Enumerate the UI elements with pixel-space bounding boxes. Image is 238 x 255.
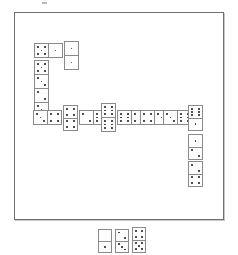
domino-1-2[interactable] [188, 134, 203, 160]
pip-grid [36, 45, 46, 55]
domino-half-a [116, 230, 128, 242]
domino-half-b [189, 148, 202, 160]
pip [143, 113, 145, 115]
pip-grid [190, 107, 200, 116]
pip [127, 113, 129, 115]
image-speck [42, 2, 47, 4]
pip [135, 248, 137, 250]
domino-half-b [99, 242, 111, 253]
pip [198, 111, 200, 113]
domino-6-1[interactable] [188, 105, 203, 131]
pip-grid [103, 119, 113, 129]
pip [104, 110, 106, 112]
pip [73, 114, 75, 116]
pip-grid [65, 107, 75, 116]
pip [141, 230, 143, 232]
pip [124, 249, 126, 251]
pip [180, 120, 182, 122]
domino-5-1[interactable] [34, 43, 63, 58]
pip [104, 113, 106, 115]
pip-grid [117, 243, 126, 251]
pip [195, 140, 197, 142]
pip-grid [35, 112, 45, 122]
pip [191, 149, 193, 151]
domino-6-6[interactable] [101, 103, 116, 132]
pip [37, 63, 39, 65]
pip [71, 48, 73, 50]
domino-half-a [189, 162, 202, 175]
pip [118, 243, 120, 245]
pip [121, 246, 123, 248]
pip [44, 53, 46, 55]
pip-grid [190, 149, 200, 158]
pip [44, 98, 46, 100]
domino-4-5[interactable] [132, 227, 146, 253]
domino-half-a [133, 228, 145, 241]
pip [111, 113, 113, 115]
domino-2-3[interactable] [115, 229, 129, 253]
domino-half-a [189, 106, 202, 119]
pip [141, 248, 143, 250]
pip [135, 242, 137, 244]
pip [166, 113, 168, 115]
domino-half-a [141, 111, 155, 124]
pip [41, 67, 43, 69]
pip [66, 126, 68, 128]
domino-half-a [65, 42, 78, 56]
pip [191, 108, 193, 110]
domino-0-1[interactable] [98, 229, 112, 253]
domino-2-4[interactable] [188, 161, 203, 187]
pip [104, 106, 106, 108]
pip-grid [36, 76, 46, 86]
pip [138, 245, 140, 247]
pip [143, 120, 145, 122]
pip [44, 63, 46, 65]
domino-half-a [35, 89, 48, 103]
pip-grid [65, 120, 75, 129]
pip-grid [134, 242, 143, 251]
pip [104, 124, 106, 126]
pip-grid [134, 229, 143, 238]
domino-1-1[interactable] [64, 41, 79, 70]
pip [66, 120, 68, 122]
pip [73, 120, 75, 122]
domino-4-4[interactable] [63, 105, 78, 131]
domino-3-4[interactable] [33, 110, 62, 125]
pip [44, 46, 46, 48]
pip-grid [36, 62, 46, 72]
pip-grid [81, 112, 91, 122]
domino-half-b [48, 111, 61, 124]
pip [37, 91, 39, 93]
pip [43, 120, 45, 122]
domino-half-a [102, 104, 115, 118]
pip [71, 62, 73, 64]
pip [40, 117, 42, 119]
pip-grid [119, 112, 129, 122]
pip [104, 127, 106, 129]
domino-half-b [65, 56, 78, 69]
pip [191, 111, 193, 113]
pip [111, 120, 113, 122]
domino-half-a [35, 61, 48, 75]
pip-grid [49, 112, 59, 122]
pip [82, 113, 84, 115]
pip [120, 120, 122, 122]
pip-grid [50, 45, 60, 55]
pip [111, 127, 113, 129]
pip [195, 123, 197, 125]
pip [37, 105, 39, 107]
domino-half-b [116, 242, 128, 253]
pip-grid [103, 105, 113, 115]
domino-half-b [189, 175, 202, 187]
pip [37, 53, 39, 55]
pip [41, 50, 43, 52]
pip [120, 113, 122, 115]
pip [198, 176, 200, 178]
pip [127, 120, 129, 122]
pip-grid [142, 112, 152, 122]
domino-5-3[interactable] [34, 60, 49, 89]
domino-half-b [189, 119, 202, 131]
pip-grid [66, 57, 76, 67]
pip [57, 120, 59, 122]
pip-grid [117, 231, 126, 239]
